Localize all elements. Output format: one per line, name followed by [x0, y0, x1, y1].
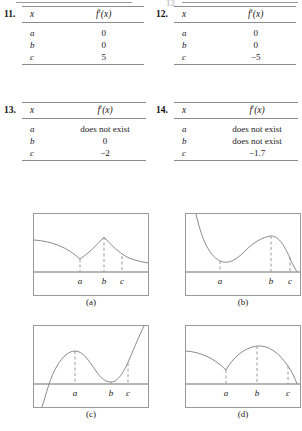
table-row: c −2 — [22, 148, 146, 161]
exercise-11: 11. x f′(x) a 0 b 0 — [4, 6, 144, 69]
cell-value: −2 — [64, 148, 146, 161]
tick-label-c: c — [120, 276, 124, 286]
derivative-table: x f′(x) a 0 b 0 c −5 — [174, 6, 296, 69]
derivative-table: x f′(x) a does not exist b does not exis… — [174, 102, 298, 165]
cell-x: b — [174, 136, 216, 148]
cell-x: b — [22, 136, 64, 148]
column-header-x: x — [174, 103, 216, 119]
cell-x: c — [174, 148, 216, 161]
tick-label-a: a — [78, 276, 83, 286]
figure-a-graph: a b c — [33, 213, 149, 296]
figure-caption: (c) — [33, 409, 149, 419]
exercise-number: 13. — [4, 102, 22, 116]
cell-value: 0 — [215, 23, 296, 40]
figure-c-graph: a b c — [33, 325, 149, 408]
curve-segment-left — [34, 240, 80, 259]
table-row: c −1.7 — [174, 148, 298, 161]
column-header-fprime: f′(x) — [64, 103, 146, 119]
column-header-x: x — [22, 103, 64, 119]
cell-value: 5 — [63, 52, 144, 65]
table-row: a 0 — [22, 23, 144, 40]
exercise-13: 13. x f′(x) a does not exist b 0 — [4, 102, 146, 165]
clipped-rule-left — [16, 2, 132, 3]
column-header-fprime: f′(x) — [63, 7, 144, 23]
figure-a: a b c (a) — [33, 213, 149, 307]
column-header-fprime: f′(x) — [216, 103, 298, 119]
table-row: a does not exist — [174, 119, 298, 136]
cell-value: does not exist — [216, 136, 298, 148]
table-bottom-rule — [174, 64, 296, 69]
tick-label-a: a — [73, 388, 78, 398]
table-bottom-rule — [22, 160, 146, 165]
curve-segment-left — [186, 351, 226, 370]
cell-x: a — [22, 119, 64, 136]
cell-x: b — [174, 40, 215, 52]
column-header-x: x — [22, 7, 63, 23]
graph-frame — [34, 214, 149, 296]
curve-segment-right — [104, 237, 148, 263]
exercise-number: 14. — [156, 102, 174, 116]
table-bottom-rule — [174, 160, 298, 165]
cell-x: c — [174, 52, 215, 65]
tick-label-c: c — [286, 388, 290, 398]
cell-x: a — [174, 23, 215, 40]
tick-label-a: a — [218, 276, 223, 286]
table-bottom-rule — [22, 64, 144, 69]
table-row: a 0 — [174, 23, 296, 40]
cell-value: 0 — [215, 40, 296, 52]
curve-segment-arc — [226, 346, 297, 384]
tick-label-a: a — [224, 388, 229, 398]
cell-x: c — [22, 52, 63, 65]
exercise-12: 12. x f′(x) a 0 b 0 — [156, 6, 296, 69]
cell-x: c — [22, 148, 64, 161]
curve-segment-left — [42, 351, 111, 407]
column-header-fprime: f′(x) — [215, 7, 296, 23]
graph-frame — [186, 326, 301, 408]
graph-frame — [34, 326, 149, 408]
graph-frame — [186, 214, 301, 296]
figure-d-graph: a b c — [185, 325, 301, 408]
tick-label-b: b — [269, 276, 274, 286]
figure-caption: (d) — [185, 409, 301, 419]
curve-segment-right — [271, 236, 297, 272]
cell-value: 0 — [63, 23, 144, 40]
tick-label-c: c — [288, 276, 292, 286]
cell-x: a — [174, 119, 216, 136]
curve-segment-right — [111, 326, 144, 382]
cell-value: −1.7 — [216, 148, 298, 161]
table-row: b 0 — [22, 136, 146, 148]
table-row: c −5 — [174, 52, 296, 65]
tick-label-b: b — [102, 276, 107, 286]
figure-b: a b c (b) — [185, 213, 301, 307]
exercise-page: 12 11. x f′(x) a 0 b 0 — [0, 0, 302, 431]
table-row: c 5 — [22, 52, 144, 65]
exercise-number: 12. — [156, 6, 174, 20]
table-row: b 0 — [174, 40, 296, 52]
exercise-14: 14. x f′(x) a does not exist b does not … — [156, 102, 298, 165]
cell-value: does not exist — [216, 119, 298, 136]
column-header-x: x — [174, 7, 215, 23]
figure-c: a b c (c) — [33, 325, 149, 419]
curve-segment-rise — [80, 237, 104, 259]
cell-value: 0 — [64, 136, 146, 148]
cell-x: a — [22, 23, 63, 40]
figure-caption: (b) — [185, 297, 301, 307]
figure-b-graph: a b c — [185, 213, 301, 296]
figure-d: a b c (d) — [185, 325, 301, 419]
table-row: b 0 — [22, 40, 144, 52]
tick-label-c: c — [126, 388, 130, 398]
table-row: a does not exist — [22, 119, 146, 136]
cell-x: b — [22, 40, 63, 52]
derivative-table: x f′(x) a does not exist b 0 c −2 — [22, 102, 146, 165]
cell-value: −5 — [215, 52, 296, 65]
exercise-number: 11. — [4, 6, 22, 20]
cell-value: 0 — [63, 40, 144, 52]
tick-label-b: b — [109, 388, 114, 398]
table-row: b does not exist — [174, 136, 298, 148]
curve-segment-left — [196, 214, 271, 262]
tick-label-b: b — [255, 388, 260, 398]
clipped-rule-right — [182, 2, 298, 3]
cell-value: does not exist — [64, 119, 146, 136]
derivative-table: x f′(x) a 0 b 0 c 5 — [22, 6, 144, 69]
figure-caption: (a) — [33, 297, 149, 307]
